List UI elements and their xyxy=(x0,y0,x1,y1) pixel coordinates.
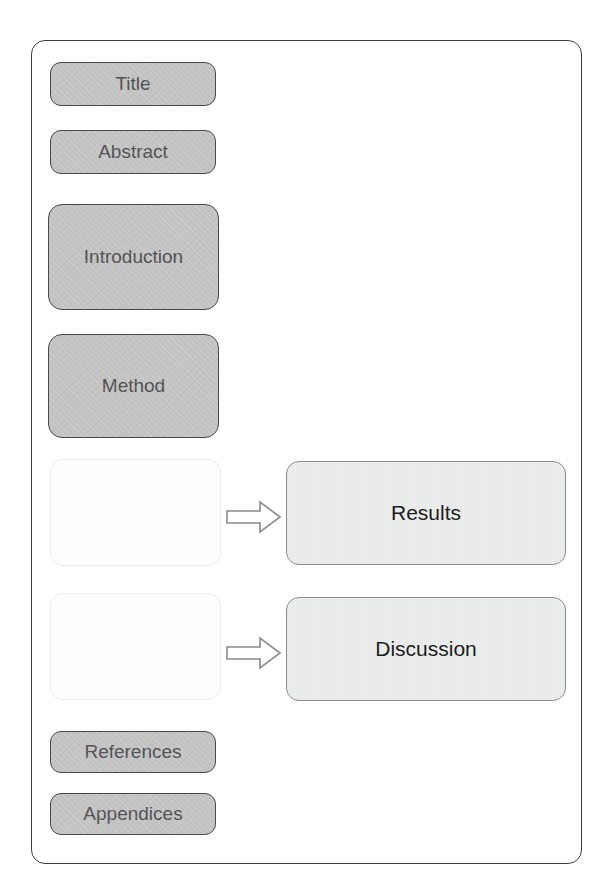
node-results-label: Results xyxy=(391,501,461,524)
node-introduction-label: Introduction xyxy=(84,247,183,268)
arrow-to-discussion-icon xyxy=(226,635,282,671)
node-introduction[interactable]: Introduction xyxy=(48,204,219,310)
node-references-label: References xyxy=(84,742,181,763)
node-title[interactable]: Title xyxy=(50,62,216,106)
node-references[interactable]: References xyxy=(50,731,216,773)
node-abstract[interactable]: Abstract xyxy=(50,130,216,174)
node-appendices[interactable]: Appendices xyxy=(50,793,216,835)
node-blank-2[interactable] xyxy=(50,593,221,700)
arrow-to-results-icon xyxy=(226,499,282,535)
node-discussion[interactable]: Discussion xyxy=(286,597,566,701)
diagram-canvas: Title Abstract Introduction Method Refer… xyxy=(0,0,616,894)
node-abstract-label: Abstract xyxy=(98,142,168,163)
node-appendices-label: Appendices xyxy=(83,804,182,825)
node-blank-1[interactable] xyxy=(50,459,221,566)
node-discussion-label: Discussion xyxy=(375,637,477,660)
node-title-label: Title xyxy=(115,74,150,95)
node-method[interactable]: Method xyxy=(48,334,219,438)
node-results[interactable]: Results xyxy=(286,461,566,565)
node-method-label: Method xyxy=(102,376,165,397)
